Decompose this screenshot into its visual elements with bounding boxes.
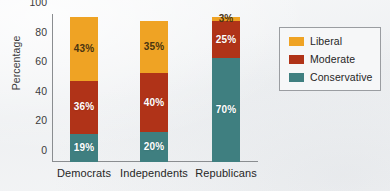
bar-segment-value-label: 20% [144,142,164,152]
y-axis-title: Percentage [10,23,22,103]
y-tick-label-60: 60 [35,55,47,67]
bar-segment-democrats-conservative[interactable]: 19% [70,134,98,162]
bar-stack: 3%25%70% [212,17,240,162]
y-tick-label-40: 40 [35,85,47,97]
y-tick-label-20: 20 [35,114,47,126]
bar-segment-value-label: 19% [74,143,94,153]
legend-swatch-conservative-icon [289,73,304,82]
bar-segment-value-label: 40% [144,98,164,108]
bar-segment-democrats-liberal[interactable]: 43% [70,17,98,81]
bar-segment-value-label: 3% [219,14,233,24]
legend-item-liberal[interactable]: Liberal [289,35,372,47]
plot-area: 020406080100 43%36%19%Democrats35%40%20%… [52,14,258,162]
y-tick-label-100: 100 [29,0,47,8]
bar-segment-value-label: 36% [74,102,94,112]
bar-segment-republicans-conservative[interactable]: 70% [212,58,240,162]
legend-label: Moderate [310,53,355,65]
bar-group-independents[interactable]: 35%40%20%Independents [140,21,168,162]
legend-item-conservative[interactable]: Conservative [289,71,372,83]
bar-group-republicans[interactable]: 3%25%70%Republicans [212,17,240,162]
legend-label: Liberal [310,35,342,47]
y-axis-line [52,14,53,162]
bar-segment-value-label: 70% [216,105,236,115]
legend-item-moderate[interactable]: Moderate [289,53,372,65]
bar-segment-value-label: 35% [144,42,164,52]
y-tick-label-80: 80 [35,26,47,38]
bar-group-democrats[interactable]: 43%36%19%Democrats [70,17,98,162]
x-axis-category-label-democrats: Democrats [57,167,111,179]
legend-swatch-liberal-icon [289,37,304,46]
bar-segment-republicans-moderate[interactable]: 25% [212,21,240,58]
chart-legend: LiberalModerateConservative [279,27,381,91]
legend-swatch-moderate-icon [289,55,304,64]
bar-segment-democrats-moderate[interactable]: 36% [70,81,98,134]
bar-stack: 35%40%20% [140,21,168,162]
bar-stack: 43%36%19% [70,17,98,162]
bar-segment-independents-liberal[interactable]: 35% [140,21,168,73]
bar-segment-independents-moderate[interactable]: 40% [140,73,168,132]
x-axis-category-label-independents: Independents [120,167,188,179]
bar-segment-value-label: 43% [74,44,94,54]
x-axis-category-label-republicans: Republicans [195,167,257,179]
stacked-bar-chart: Percentage 020406080100 43%36%19%Democra… [0,0,390,191]
y-tick-label-0: 0 [41,144,47,156]
bar-segment-value-label: 25% [216,35,236,45]
bar-segment-independents-conservative[interactable]: 20% [140,132,168,162]
legend-label: Conservative [310,71,372,83]
